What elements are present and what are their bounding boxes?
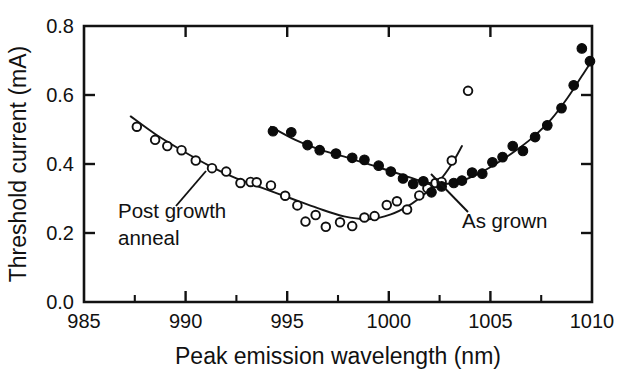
data-point-post-growth-anneal bbox=[236, 179, 245, 188]
data-point-as-grown bbox=[518, 146, 528, 156]
annotation-post-growth-anneal-line1: Post growth bbox=[118, 199, 226, 222]
data-point-post-growth-anneal bbox=[293, 201, 302, 210]
x-tick-label-985: 985 bbox=[67, 310, 100, 332]
data-point-as-grown bbox=[303, 140, 313, 150]
data-point-post-growth-anneal bbox=[191, 156, 200, 165]
data-point-as-grown bbox=[419, 176, 429, 186]
data-point-post-growth-anneal bbox=[403, 205, 412, 214]
data-point-post-growth-anneal bbox=[281, 191, 290, 200]
data-point-post-growth-anneal bbox=[382, 201, 391, 210]
data-point-as-grown bbox=[427, 187, 437, 197]
data-point-as-grown bbox=[360, 155, 370, 165]
data-point-as-grown bbox=[498, 152, 508, 162]
data-point-as-grown bbox=[386, 167, 396, 177]
x-tick-label-1000: 1000 bbox=[367, 310, 412, 332]
annotation-as-grown: As grown bbox=[462, 209, 547, 232]
data-point-post-growth-anneal bbox=[447, 156, 456, 165]
y-tick-label-0.2: 0.2 bbox=[46, 222, 74, 244]
x-tick-label-1005: 1005 bbox=[468, 310, 513, 332]
data-point-as-grown bbox=[508, 141, 518, 151]
data-point-post-growth-anneal bbox=[464, 87, 473, 96]
data-point-post-growth-anneal bbox=[222, 167, 231, 176]
data-point-post-growth-anneal bbox=[267, 181, 276, 190]
y-tick-label-0.8: 0.8 bbox=[46, 15, 74, 37]
data-point-as-grown bbox=[408, 179, 418, 189]
x-axis-tick-labels: 985990995100010051010 bbox=[67, 310, 614, 332]
data-point-as-grown bbox=[374, 161, 384, 171]
x-axis-title: Peak emission wavelength (nm) bbox=[175, 343, 501, 369]
fit-curves-group bbox=[131, 61, 592, 220]
threshold-current-scatter-plot: 985990995100010051010 0.00.20.40.60.8 Po… bbox=[0, 0, 628, 379]
data-point-post-growth-anneal bbox=[133, 122, 142, 131]
x-tick-label-990: 990 bbox=[169, 310, 202, 332]
data-point-post-growth-anneal bbox=[360, 213, 369, 222]
data-point-as-grown bbox=[437, 182, 447, 192]
data-point-as-grown bbox=[585, 56, 595, 66]
data-point-as-grown bbox=[457, 176, 467, 186]
data-point-post-growth-anneal bbox=[393, 197, 402, 206]
data-point-post-growth-anneal bbox=[370, 212, 379, 221]
data-point-post-growth-anneal bbox=[348, 222, 357, 231]
x-tick-label-995: 995 bbox=[271, 310, 304, 332]
data-point-post-growth-anneal bbox=[177, 146, 186, 155]
data-point-post-growth-anneal bbox=[252, 178, 261, 187]
data-point-post-growth-anneal bbox=[208, 164, 217, 173]
data-point-as-grown bbox=[543, 121, 553, 131]
data-point-post-growth-anneal bbox=[415, 191, 424, 200]
data-point-post-growth-anneal bbox=[163, 142, 172, 151]
y-axis-title: Threshold current (mA) bbox=[5, 46, 31, 282]
data-point-as-grown bbox=[467, 168, 477, 178]
y-tick-label-0.4: 0.4 bbox=[46, 153, 74, 175]
data-point-as-grown bbox=[557, 103, 567, 113]
data-point-as-grown bbox=[577, 44, 587, 54]
annotation-post-growth-anneal-line2: anneal bbox=[118, 226, 180, 249]
y-tick-label-0.0: 0.0 bbox=[46, 291, 74, 313]
data-point-as-grown bbox=[268, 126, 278, 136]
data-point-as-grown bbox=[488, 157, 498, 167]
data-point-as-grown bbox=[347, 153, 357, 163]
data-point-as-grown bbox=[315, 145, 325, 155]
data-point-post-growth-anneal bbox=[322, 222, 331, 231]
data-point-post-growth-anneal bbox=[151, 136, 160, 145]
data-point-as-grown bbox=[569, 81, 579, 91]
data-point-as-grown bbox=[331, 149, 341, 159]
data-point-as-grown bbox=[477, 169, 487, 179]
y-tick-label-0.6: 0.6 bbox=[46, 84, 74, 106]
data-point-post-growth-anneal bbox=[336, 218, 345, 227]
data-point-post-growth-anneal bbox=[311, 211, 320, 220]
x-tick-label-1010: 1010 bbox=[570, 310, 615, 332]
data-point-post-growth-anneal bbox=[301, 217, 310, 226]
data-point-as-grown bbox=[286, 127, 296, 137]
y-axis-tick-labels: 0.00.20.40.60.8 bbox=[46, 15, 74, 313]
figure-container: 985990995100010051010 0.00.20.40.60.8 Po… bbox=[0, 0, 628, 379]
data-point-as-grown bbox=[398, 174, 408, 184]
data-point-as-grown bbox=[530, 132, 540, 142]
plot-frame bbox=[84, 26, 592, 302]
